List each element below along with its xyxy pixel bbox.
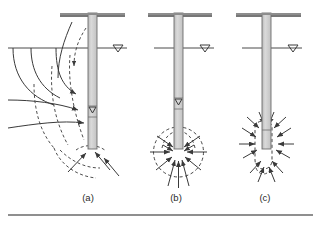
panel-c: (c) xyxy=(236,13,302,203)
panel-a: (a) xyxy=(8,13,127,203)
figure-root: (a) xyxy=(0,0,321,231)
panel-b: (b) xyxy=(148,13,214,203)
pile-a xyxy=(88,13,97,149)
flownet-solid-lines-a xyxy=(8,22,84,128)
panel-caption-b: (b) xyxy=(170,192,182,203)
panel-caption-c: (c) xyxy=(259,192,270,203)
pile-c xyxy=(262,13,271,149)
panel-caption-a: (a) xyxy=(82,192,94,203)
pile-b xyxy=(174,13,183,149)
diagram-svg: (a) xyxy=(0,0,321,231)
